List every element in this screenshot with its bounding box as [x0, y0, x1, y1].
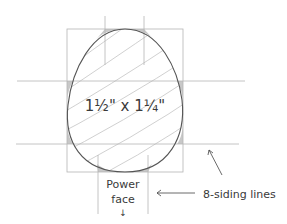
power-face-arrow-icon: ↓ — [119, 208, 127, 218]
up-arrow-icon — [209, 150, 222, 175]
power-face-label-line2: face — [111, 193, 135, 206]
diagram-canvas: 1½" x 1¼" Power face ↓ 8-siding lines — [0, 0, 287, 224]
callout-label: 8-siding lines — [203, 188, 276, 201]
eight-siding-diagram: 1½" x 1¼" Power face ↓ 8-siding lines — [0, 0, 287, 224]
dimension-label: 1½" x 1¼" — [85, 97, 165, 115]
power-face-label-line1: Power — [106, 178, 140, 191]
